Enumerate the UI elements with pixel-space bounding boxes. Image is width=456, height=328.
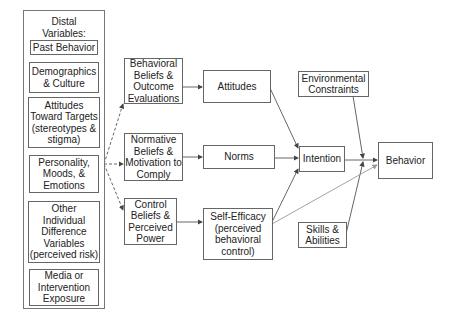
node-normative-beliefs: Normative Beliefs & Motivation to Comply [124, 133, 183, 181]
node-attitudes: Attitudes [203, 70, 271, 103]
edge-skills-to-link [346, 162, 363, 234]
node-norms: Norms [203, 145, 275, 169]
node-other-individual-differences: Other Individual Difference Variables (p… [28, 201, 100, 263]
node-media-intervention-exposure: Media or Intervention Exposure [29, 269, 99, 306]
node-demographics-culture: Demographics & Culture [29, 62, 99, 93]
node-self-efficacy: Self-Efficacy (perceived behavioral cont… [203, 208, 273, 260]
node-personality-moods-emotions: Personality, Moods, & Emotions [29, 155, 99, 193]
edge-distal-to-behavioral-beliefs [104, 104, 123, 164]
node-behavioral-beliefs: Behavioral Beliefs & Outcome Evaluations [124, 58, 183, 104]
node-skills-abilities: Skills & Abilities [298, 222, 347, 248]
edge-environmental-to-link [353, 96, 363, 158]
edge-self-efficacy-to-behavior [272, 165, 377, 224]
node-control-beliefs: Control Beliefs & Perceived Power [124, 198, 177, 245]
edge-attitudes-to-intention [270, 88, 298, 148]
node-intention: Intention [299, 146, 345, 172]
node-environmental-constraints: Environmental Constraints [298, 71, 369, 97]
node-past-behavior: Past Behavior [30, 40, 98, 55]
node-attitudes-toward-targets: Attitudes Toward Targets (stereotypes & … [28, 97, 100, 148]
distal-variables-title: Distal Variables: [24, 16, 104, 39]
edge-distal-to-control-beliefs [104, 164, 123, 210]
node-behavior: Behavior [378, 142, 433, 179]
edge-self-efficacy-to-intention [272, 169, 298, 222]
